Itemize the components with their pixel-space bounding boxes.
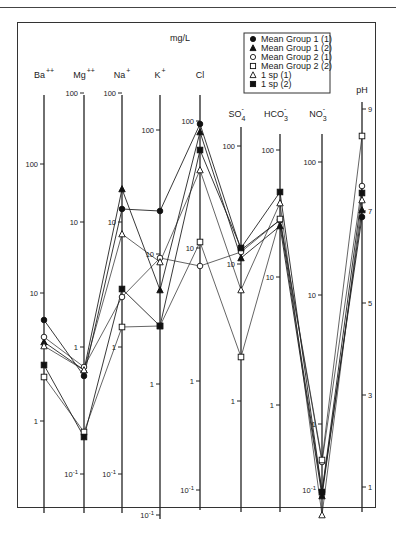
parallel-axis-chart: mg/L Ba++100101Mg++10010110-1Na+10010110… <box>0 0 396 553</box>
tick-label: 100 <box>65 89 78 98</box>
triangle-marker-icon <box>119 186 125 192</box>
triangle-marker-icon <box>238 255 244 261</box>
axis-label-hco: HCO3- <box>264 105 288 122</box>
tick-label: 100 <box>25 160 38 169</box>
square-marker-icon <box>119 286 125 292</box>
circle-marker-icon <box>157 208 163 214</box>
tick-label: 100 <box>181 117 194 126</box>
tick-label: 10 <box>308 291 316 300</box>
tick-label: 10-1 <box>102 469 116 479</box>
square-marker-icon <box>41 362 47 368</box>
series-line <box>44 170 362 515</box>
axis-label-no: NO3- <box>309 105 327 122</box>
square-marker-icon <box>119 324 125 330</box>
square-marker-icon <box>197 147 203 153</box>
tick-label: 1 <box>368 483 372 492</box>
tick-label: 100 <box>261 146 274 155</box>
square-marker-icon <box>238 354 244 360</box>
circle-marker-icon <box>250 36 255 41</box>
tick-label: 10 <box>186 244 194 253</box>
tick-label: 1 <box>34 417 38 426</box>
tick-label: 1 <box>190 377 194 386</box>
tick-label: 10 <box>266 273 274 282</box>
axis-hco: HCO3-100101 <box>261 105 288 512</box>
square-marker-icon <box>157 323 163 329</box>
axis-ph: pH97531 <box>356 85 372 512</box>
circle-marker-icon <box>197 121 203 127</box>
axis-k: K+10010110-1 <box>140 67 165 520</box>
tick-label: 9 <box>368 105 372 114</box>
axis-label-ph: pH <box>356 85 368 95</box>
axis-label-so: SO4- <box>229 105 246 122</box>
circle-marker-icon <box>81 373 87 379</box>
tick-label: 1 <box>231 397 235 406</box>
tick-label: 10-1 <box>302 485 316 495</box>
tick-label: 7 <box>368 207 372 216</box>
triangle-marker-icon <box>157 287 163 293</box>
tick-label: 10 <box>70 218 78 227</box>
tick-label: 1 <box>150 380 154 389</box>
axis-label-ba: Ba++ <box>34 67 54 80</box>
square-marker-icon <box>250 63 255 68</box>
circle-marker-icon <box>119 206 125 212</box>
tick-label: 100 <box>103 89 116 98</box>
axis-label-mg: Mg++ <box>73 67 95 80</box>
tick-label: 3 <box>368 391 372 400</box>
square-marker-icon <box>197 239 203 245</box>
square-marker-icon <box>250 81 255 86</box>
square-marker-icon <box>319 457 325 463</box>
tick-label: 10 <box>227 260 235 269</box>
circle-marker-icon <box>41 334 47 340</box>
circle-marker-icon <box>359 183 365 189</box>
square-marker-icon <box>277 216 283 222</box>
square-marker-icon <box>359 190 365 196</box>
axis-ba: Ba++100101 <box>25 67 54 513</box>
square-marker-icon <box>238 245 244 251</box>
tick-label: 100 <box>222 142 235 151</box>
axis-label-na: Na+ <box>114 67 131 80</box>
square-marker-icon <box>277 189 283 195</box>
tick-label: 1 <box>74 343 78 352</box>
axis-so: SO4-100101 <box>222 105 245 512</box>
tick-label: 10-1 <box>140 510 154 520</box>
tick-label: 5 <box>368 299 372 308</box>
square-marker-icon <box>41 374 47 380</box>
circle-marker-icon <box>119 294 125 300</box>
tick-label: 100 <box>141 126 154 135</box>
axis-label-cl: Cl <box>196 70 205 80</box>
square-marker-icon <box>81 434 87 440</box>
tick-label: 10-1 <box>64 469 78 479</box>
triangle-marker-icon <box>238 287 244 293</box>
triangle-marker-icon <box>277 200 283 206</box>
tick-label: 100 <box>303 158 316 167</box>
axis-label-k: K+ <box>154 67 165 80</box>
axis-cl: Cl10010110-1 <box>180 70 204 510</box>
tick-label: 1 <box>270 401 274 410</box>
tick-label: 10 <box>30 289 38 298</box>
axis-mg: Mg++10010110-1 <box>64 67 95 513</box>
triangle-marker-icon <box>119 231 125 237</box>
circle-marker-icon <box>41 317 47 323</box>
tick-label: 10-1 <box>180 485 194 495</box>
series-lines <box>44 124 362 515</box>
square-marker-icon <box>319 489 325 495</box>
triangle-marker-icon <box>319 512 325 518</box>
circle-marker-icon <box>359 214 365 220</box>
circle-marker-icon <box>197 263 203 269</box>
circle-marker-icon <box>250 54 255 59</box>
legend: Mean Group 1 (1)Mean Group 1 (2)Mean Gro… <box>244 33 332 93</box>
legend-label: 1 sp (2) <box>261 79 292 89</box>
triangle-marker-icon <box>197 167 203 173</box>
square-marker-icon <box>359 133 365 139</box>
unit-label: mg/L <box>170 33 190 43</box>
